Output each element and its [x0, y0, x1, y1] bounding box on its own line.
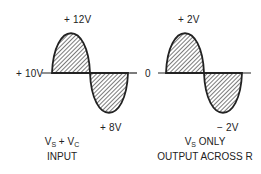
input-positive-half [52, 33, 90, 73]
input-caption-formula: VS + VC [36, 136, 88, 151]
input-caption-title: INPUT [36, 151, 88, 163]
output-negative-half [204, 73, 242, 113]
output-caption: VS ONLY OUTPUT ACROSS R [155, 136, 255, 163]
input-trough-label: + 8V [100, 122, 122, 133]
output-positive-half [166, 33, 204, 73]
input-peak-label: + 12V [64, 14, 91, 25]
input-baseline-label: + 10V [16, 68, 43, 79]
input-negative-half [90, 73, 128, 113]
input-waveform [42, 33, 130, 113]
output-trough-label: − 2V [217, 122, 239, 133]
output-baseline-label: 0 [145, 68, 151, 79]
output-caption-formula: VS ONLY [155, 136, 255, 151]
output-caption-title: OUTPUT ACROSS R [155, 151, 255, 163]
input-caption: VS + VC INPUT [36, 136, 88, 163]
output-peak-label: + 2V [178, 14, 200, 25]
